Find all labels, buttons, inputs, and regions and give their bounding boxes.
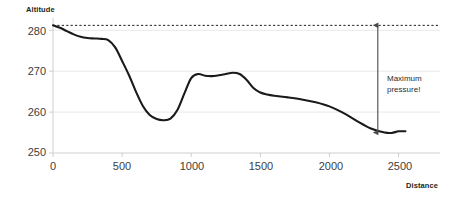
altitude-line bbox=[53, 25, 405, 133]
axis-ticks bbox=[49, 30, 399, 157]
altitude-distance-chart: Altitude Distance 280 270 260 250 0 500 … bbox=[0, 0, 465, 197]
plot-area bbox=[0, 0, 465, 197]
